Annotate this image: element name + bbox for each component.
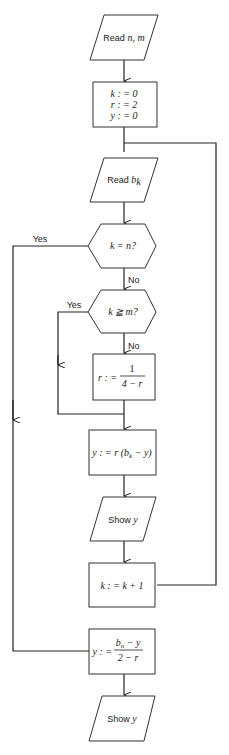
svg-text:Show y: Show y <box>108 514 138 525</box>
init-k: k : = 0 <box>110 88 137 99</box>
node-final-y: y : = bn − y 2 − r <box>89 629 155 674</box>
assign-r-num: 1 <box>130 363 135 374</box>
node-read-bk: Read bk <box>90 158 158 202</box>
init-r: r : = 2 <box>111 99 137 110</box>
read-bk-sub: k <box>136 176 141 187</box>
node-decision-k-ge-m: k ≧ m? <box>88 290 156 333</box>
incr-k-label: k : = k + 1 <box>100 580 143 591</box>
label-kn-yes: Yes <box>33 234 48 244</box>
label-km-yes: Yes <box>67 300 82 310</box>
assign-y-label: y : = r (b <box>91 447 129 459</box>
show-y1-label: Show <box>108 515 133 525</box>
node-assign-r: r : = 1 4 − r <box>93 354 155 400</box>
node-show-y-1: Show y <box>90 497 156 541</box>
flowchart: Read n, m k : = 0 r : = 2 y : = 0 Read b… <box>0 0 229 755</box>
node-increment-k: k : = k + 1 <box>89 563 155 607</box>
node-read-nm: Read n, m <box>90 15 158 60</box>
label-km-no: No <box>128 341 140 351</box>
read-bk-label: Read <box>107 175 131 185</box>
show-y2-label: Show <box>107 714 132 724</box>
show-y1-var: y <box>132 514 138 525</box>
assign-r-den: 4 − r <box>122 378 143 389</box>
final-y-num-tail: − y <box>124 637 141 648</box>
read-label: Read <box>103 33 127 43</box>
svg-text:Show y: Show y <box>107 713 137 724</box>
read-vars: n, m <box>127 32 144 43</box>
node-show-y-2: Show y <box>89 696 155 741</box>
show-y2-var: y <box>131 713 137 724</box>
assign-y-tail: − y) <box>132 447 152 459</box>
assign-r-lhs: r : = <box>98 372 117 383</box>
node-init: k : = 0 r : = 2 y : = 0 <box>93 82 157 127</box>
node-assign-y: y : = r (bk − y) <box>89 430 156 475</box>
svg-text:Read n, m: Read n, m <box>103 32 144 43</box>
init-y: y : = 0 <box>109 110 137 121</box>
label-kn-no: No <box>128 275 140 285</box>
final-y-lhs: y : = <box>91 646 112 657</box>
dec-km-label: k ≧ m? <box>108 306 138 317</box>
final-y-den: 2 − r <box>118 652 139 663</box>
node-decision-k-eq-n: k = n? <box>88 224 156 268</box>
dec-kn-label: k = n? <box>110 240 136 251</box>
